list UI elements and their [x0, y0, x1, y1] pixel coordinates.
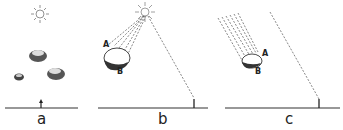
panel-a [5, 5, 78, 108]
point-a-label: A [262, 49, 268, 58]
panel-c-label: c [285, 110, 293, 128]
panel-b [98, 2, 208, 108]
point-a-label: A [103, 40, 109, 49]
panel-c [218, 12, 340, 108]
shadow-marker-icon [39, 99, 43, 108]
sun-rays [218, 12, 319, 99]
point-b-label: B [255, 67, 261, 76]
rock-icon [14, 74, 24, 81]
panel-b-label: b [158, 110, 168, 128]
rock-icon [47, 68, 65, 80]
rock-icon [29, 50, 47, 62]
sun-icon [31, 5, 49, 23]
sun-icon [135, 2, 155, 22]
panel-a-label: a [37, 110, 46, 128]
point-b-label: B [117, 67, 123, 76]
